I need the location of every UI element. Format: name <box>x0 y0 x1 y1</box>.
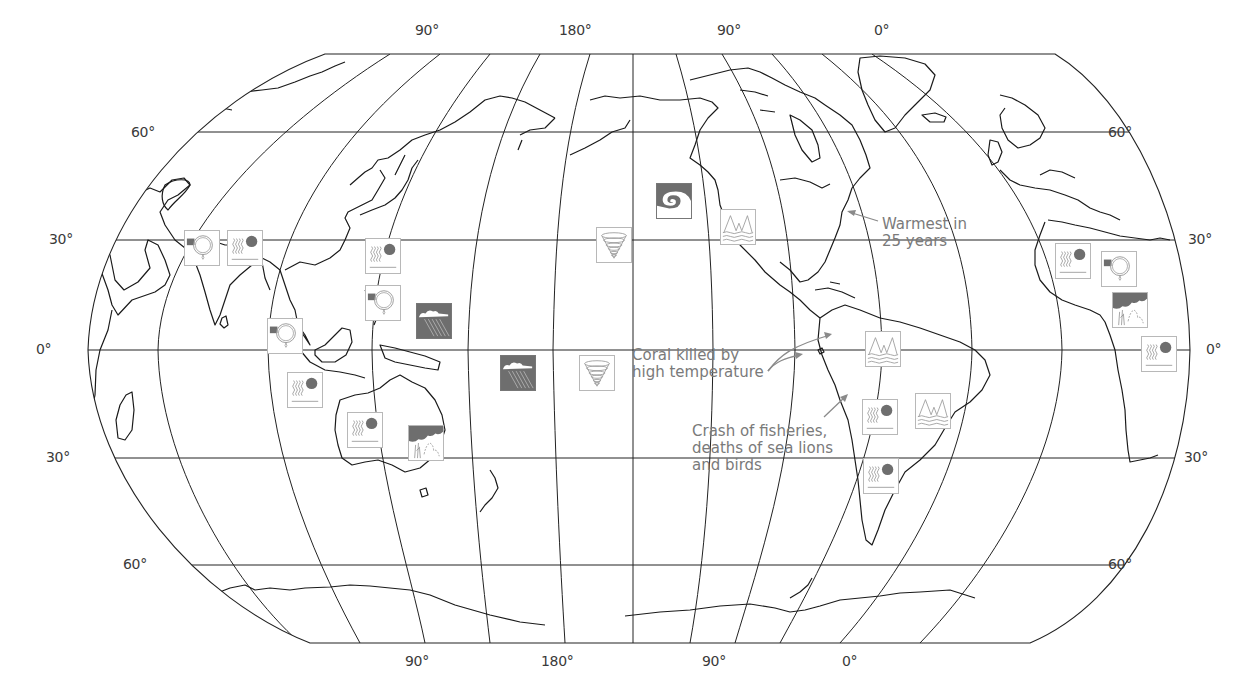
lat-label: 0° <box>1206 341 1221 357</box>
heat-icon <box>863 458 899 494</box>
coast-scandinavia <box>1000 95 1045 148</box>
coast-caribbean <box>815 282 855 298</box>
coast-tasmania <box>420 488 428 497</box>
flooding-icon <box>915 393 951 429</box>
meridian <box>468 54 540 643</box>
tropical-storm-icon <box>579 355 615 391</box>
wind-storm-icon <box>656 183 692 219</box>
lat-label: 30° <box>46 449 70 465</box>
coast-caspian <box>162 180 190 210</box>
coast-south-america <box>818 305 990 545</box>
coastlines <box>90 56 1170 625</box>
coast-great-lakes <box>780 178 830 188</box>
heavy-rain-icon <box>416 303 452 339</box>
meridian <box>372 54 490 643</box>
world-map <box>0 0 1249 698</box>
lon-label: 90° <box>717 22 741 38</box>
coast-new-zealand <box>480 470 498 512</box>
heavy-rain-icon <box>500 355 536 391</box>
coast-canada-arctic <box>690 68 825 112</box>
heat-icon <box>287 372 323 408</box>
lat-label: 60° <box>1108 556 1132 572</box>
annotation-fisheries: Crash of fisheries, deaths of sea lions … <box>692 423 833 474</box>
wildfire-icon <box>1112 292 1148 328</box>
annotation-line: deaths of sea lions <box>692 440 833 457</box>
lat-label: 0° <box>36 341 51 357</box>
heat-icon <box>365 238 401 274</box>
graticule <box>60 54 1200 643</box>
coast-sri-lanka <box>220 316 228 328</box>
annotation-line: high temperature <box>632 364 764 381</box>
annotation-line: Warmest in <box>882 216 967 233</box>
drought-icon <box>1101 251 1137 287</box>
lat-label: 60° <box>131 124 155 140</box>
lat-label: 30° <box>1184 449 1208 465</box>
flooding-icon <box>720 209 756 245</box>
heat-icon <box>347 412 383 448</box>
coast-new-guinea <box>380 345 440 370</box>
lon-label: 90° <box>702 653 726 669</box>
lon-label: 0° <box>842 653 857 669</box>
lon-label: 90° <box>415 22 439 38</box>
heat-icon <box>862 399 898 435</box>
lon-label: 90° <box>405 653 429 669</box>
heat-icon <box>1141 336 1177 372</box>
annotation-coral: Coral killed by high temperature <box>632 347 764 381</box>
lat-label: 30° <box>49 231 73 247</box>
drought-icon <box>267 318 303 354</box>
drought-icon <box>365 285 401 321</box>
coast-japan <box>360 155 418 215</box>
coast-aleutians <box>570 120 630 155</box>
coast-iceland <box>922 113 946 122</box>
annotation-line: Crash of fisheries, <box>692 423 833 440</box>
coast-hudson-bay <box>790 115 820 162</box>
coast-kamchatka <box>518 118 555 150</box>
coast-alaska <box>590 96 820 318</box>
coast-india <box>185 258 262 325</box>
lat-label: 60° <box>123 556 147 572</box>
flooding-icon <box>865 331 901 367</box>
lat-label: 30° <box>1188 231 1212 247</box>
coast-britain <box>988 140 1002 165</box>
annotation-line: 25 years <box>882 233 967 250</box>
coast-europe <box>1000 170 1120 220</box>
drought-icon <box>184 230 220 266</box>
meridian <box>553 54 590 643</box>
heat-icon <box>227 230 263 266</box>
coast-madagascar <box>116 392 134 440</box>
wildfire-icon <box>408 425 444 461</box>
annotation-warmest: Warmest in 25 years <box>882 216 967 250</box>
coast-antarctica-east <box>625 578 975 616</box>
annotation-line: and birds <box>692 457 833 474</box>
lon-label: 180° <box>541 653 574 669</box>
annotation-arrows <box>768 210 878 417</box>
lat-label: 60° <box>1108 124 1132 140</box>
annotation-line: Coral killed by <box>632 347 764 364</box>
heat-icon <box>1055 243 1091 279</box>
lon-label: 180° <box>559 22 592 38</box>
coast-borneo <box>315 328 352 362</box>
tropical-storm-icon <box>596 227 632 263</box>
coast-greenland <box>858 56 935 132</box>
lon-label: 0° <box>874 22 889 38</box>
